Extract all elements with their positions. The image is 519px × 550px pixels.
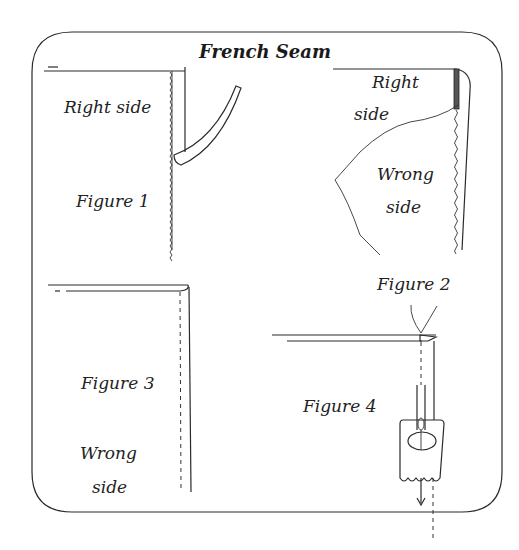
figure-3-side-label: side: [92, 477, 127, 497]
french-seam-diagram: French Seam Right side Figure 1 Right si…: [0, 0, 519, 550]
figure-2: Right side Wrong side Figure 2: [333, 69, 470, 294]
figure-3-label: Figure 3: [80, 373, 154, 393]
figure-2-label: Figure 2: [376, 274, 450, 294]
figure-4: Figure 4: [272, 305, 444, 540]
figure-1-right-side-label: Right side: [63, 97, 151, 117]
figure-2-wrong-label: Wrong: [377, 164, 434, 184]
figure-2-side2-label: side: [386, 197, 421, 217]
figure-3-wrong-label: Wrong: [80, 443, 137, 463]
figure-4-label: Figure 4: [302, 396, 376, 416]
diagram-title: French Seam: [198, 41, 331, 62]
figure-1: Right side Figure 1: [44, 67, 241, 261]
figure-3: Figure 3 Wrong side: [48, 285, 191, 497]
figure-1-label: Figure 1: [75, 191, 149, 211]
figure-2-side-label: side: [354, 104, 389, 124]
figure-2-right-label: Right: [371, 72, 419, 92]
